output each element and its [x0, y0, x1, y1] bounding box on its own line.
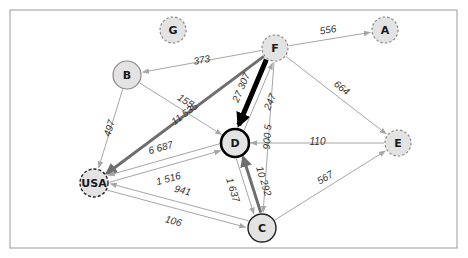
edge-label-f-to-c: 900 5	[261, 124, 274, 150]
caption-cutoff	[14, 250, 464, 258]
edge-label-e-to-d: 110	[310, 136, 326, 147]
node-e: E	[385, 130, 411, 156]
node-label: B	[123, 69, 131, 82]
node-b: B	[113, 61, 141, 89]
node-label: G	[168, 24, 177, 37]
node-g: G	[160, 17, 186, 43]
node-label: A	[381, 24, 390, 37]
node-a: A	[372, 17, 398, 43]
node-usa: USA	[80, 169, 108, 197]
node-f: F	[262, 35, 288, 61]
node-d: D	[221, 129, 249, 157]
network-diagram: 37355666411 53527 307247900 51554971 516…	[0, 0, 468, 258]
node-c: C	[248, 214, 276, 242]
node-label: E	[394, 137, 402, 150]
node-label: D	[230, 137, 239, 150]
node-label: USA	[81, 177, 107, 190]
node-label: F	[271, 42, 279, 55]
node-label: C	[258, 222, 266, 235]
